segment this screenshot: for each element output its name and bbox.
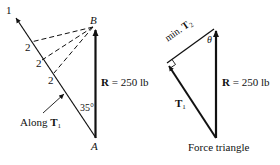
dash-label-3: 2	[48, 75, 54, 86]
dash-label-1: 2	[25, 42, 31, 53]
t1-symbol: T	[50, 116, 57, 128]
r-value-right: = 250 lb	[230, 76, 270, 88]
along-text: Along	[20, 116, 50, 128]
point-b-label: B	[90, 15, 97, 26]
theta-label: θ	[207, 35, 212, 45]
dashed-line-1	[31, 27, 93, 42]
angle-35-label: 35°	[80, 103, 94, 113]
r-symbol-right: R	[222, 76, 230, 88]
right-angle-mark	[171, 60, 176, 68]
line-1-label: 1	[6, 5, 12, 16]
dash-label-2: 2	[36, 58, 42, 69]
right-figure	[167, 29, 216, 138]
r-symbol: R	[101, 76, 109, 88]
r-value: = 250 lb	[109, 76, 149, 88]
t1-subscript: 1	[58, 122, 62, 130]
t1-label: T1	[175, 98, 186, 111]
dashed-line-3	[54, 27, 93, 73]
along-t1-pointer	[43, 94, 64, 113]
right-resultant-label: R = 250 lb	[222, 77, 269, 88]
force-triangle-caption: Force triangle	[188, 142, 249, 153]
along-t1-label: Along T1	[20, 117, 61, 130]
left-resultant-label: R = 250 lb	[101, 77, 148, 88]
t1-vector-subscript: 1	[182, 103, 186, 111]
point-a-label: A	[91, 141, 98, 152]
dashed-line-2	[42, 27, 93, 60]
